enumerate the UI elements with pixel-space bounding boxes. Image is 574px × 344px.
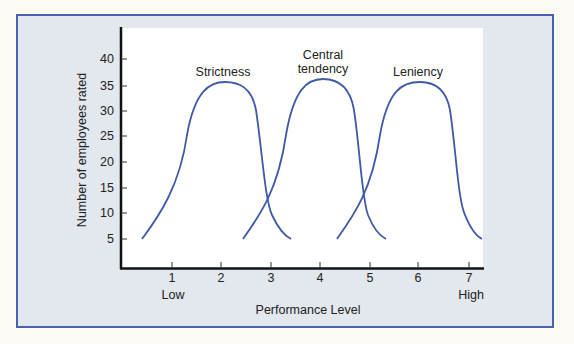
central-tendency-line1: Central bbox=[298, 48, 349, 62]
strictness-label: Strictness bbox=[196, 65, 251, 79]
x-tick-label: 6 bbox=[415, 271, 422, 285]
x-tick-label: 7 bbox=[466, 271, 473, 285]
x-high-label: High bbox=[458, 288, 484, 302]
y-tick-label: 5 bbox=[90, 232, 114, 246]
y-tick-label: 25 bbox=[90, 129, 114, 143]
y-axis-title: Number of employees rated bbox=[75, 73, 89, 227]
y-tick-label: 20 bbox=[90, 155, 114, 169]
x-tick-label: 3 bbox=[268, 271, 275, 285]
y-tick-label: 35 bbox=[90, 79, 114, 93]
y-tick-label: 10 bbox=[90, 206, 114, 220]
y-tick-label: 40 bbox=[90, 52, 114, 66]
central-tendency-curve bbox=[243, 79, 386, 239]
leniency-curve bbox=[337, 82, 482, 239]
x-tick-label: 5 bbox=[367, 271, 374, 285]
x-axis-title: Performance Level bbox=[256, 303, 361, 317]
x-ticks bbox=[172, 262, 469, 268]
y-tick-label: 15 bbox=[90, 181, 114, 195]
x-low-label: Low bbox=[162, 288, 185, 302]
x-tick-label: 2 bbox=[218, 271, 225, 285]
leniency-label: Leniency bbox=[393, 65, 443, 79]
central-tendency-line2: tendency bbox=[298, 62, 349, 76]
y-tick-label: 30 bbox=[90, 104, 114, 118]
x-tick-label: 1 bbox=[169, 271, 176, 285]
x-tick-label: 4 bbox=[317, 271, 324, 285]
central-tendency-label: Central tendency bbox=[298, 48, 349, 76]
strictness-curve bbox=[142, 82, 291, 239]
